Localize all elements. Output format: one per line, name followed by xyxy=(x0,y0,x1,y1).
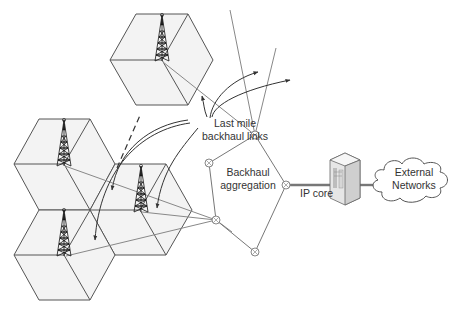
server-icon xyxy=(330,153,360,205)
ip-core-label: IP core xyxy=(300,187,333,200)
external-networks-label: External Networks xyxy=(384,166,444,192)
cell-top xyxy=(110,13,213,105)
aggregation-nodes xyxy=(205,131,290,256)
aggregation-node-icon xyxy=(251,248,259,256)
aggregation-label: Backhaul aggregation xyxy=(212,166,284,192)
last-mile-label: Last mile backhaul links xyxy=(190,117,280,143)
aggregation-node-icon xyxy=(212,216,220,224)
dashed-link xyxy=(117,113,141,168)
backhaul-diagram xyxy=(0,0,460,312)
